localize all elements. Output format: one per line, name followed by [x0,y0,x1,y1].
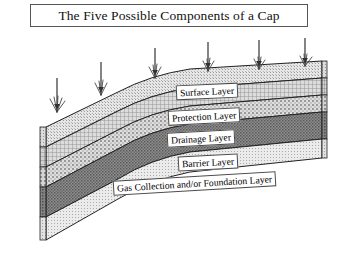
right-cut-face [322,61,327,158]
cap-cross-section-diagram [0,0,339,257]
layer-label-barrier: Barrier Layer [178,153,239,171]
layer-label-surface: Surface Layer [176,83,239,101]
grass-tuft [50,96,65,112]
left-cut-face [40,127,46,240]
figure-page: The Five Possible Components of a Cap [0,0,339,257]
